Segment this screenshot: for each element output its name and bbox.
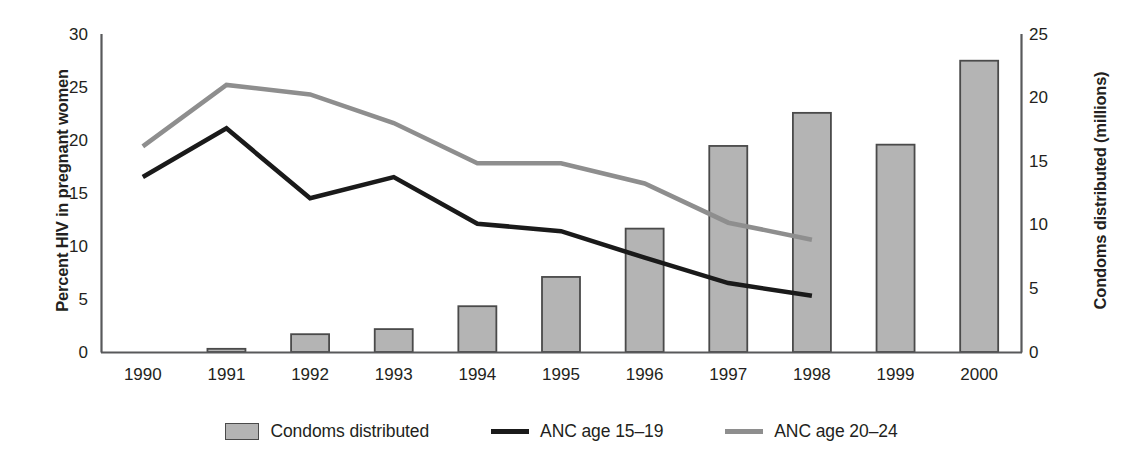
legend-label: Condoms distributed — [270, 421, 429, 442]
x-axis-tick: 1991 — [208, 365, 246, 385]
x-axis-tick: 1995 — [542, 365, 580, 385]
bar — [626, 229, 664, 352]
legend-item[interactable]: ANC age 20–24 — [725, 421, 897, 442]
bar — [458, 306, 496, 352]
legend-item[interactable]: ANC age 15–19 — [491, 421, 663, 442]
legend-item[interactable]: Condoms distributed — [225, 421, 429, 442]
x-axis-tick: 1994 — [458, 365, 496, 385]
legend-line-swatch-dark-icon — [491, 429, 529, 434]
bar — [877, 145, 915, 352]
x-axis-tick: 2000 — [960, 365, 998, 385]
chart-legend: Condoms distributedANC age 15–19ANC age … — [0, 413, 1123, 449]
bar — [375, 329, 413, 352]
bar — [960, 61, 998, 352]
x-axis-tick: 1993 — [375, 365, 413, 385]
bars-group — [207, 61, 998, 352]
plot-svg — [101, 34, 1021, 352]
x-axis-tick: 1990 — [124, 365, 162, 385]
bar — [793, 113, 831, 352]
x-axis-tick: 1999 — [877, 365, 915, 385]
x-axis-tick: 1997 — [709, 365, 747, 385]
chart-figure: Percent HIV in pregnant women Condoms di… — [0, 0, 1123, 475]
bar — [291, 334, 329, 352]
x-axis-tick: 1992 — [291, 365, 329, 385]
legend-label: ANC age 15–19 — [540, 421, 663, 442]
x-axis-tick: 1996 — [626, 365, 664, 385]
x-axis-tick: 1998 — [793, 365, 831, 385]
plot-area — [101, 34, 1021, 352]
bar — [542, 277, 580, 352]
bar — [207, 349, 245, 352]
bar — [709, 146, 747, 352]
legend-label: ANC age 20–24 — [774, 421, 897, 442]
legend-line-swatch-grey-icon — [725, 429, 763, 434]
legend-bar-swatch-icon — [225, 423, 259, 440]
